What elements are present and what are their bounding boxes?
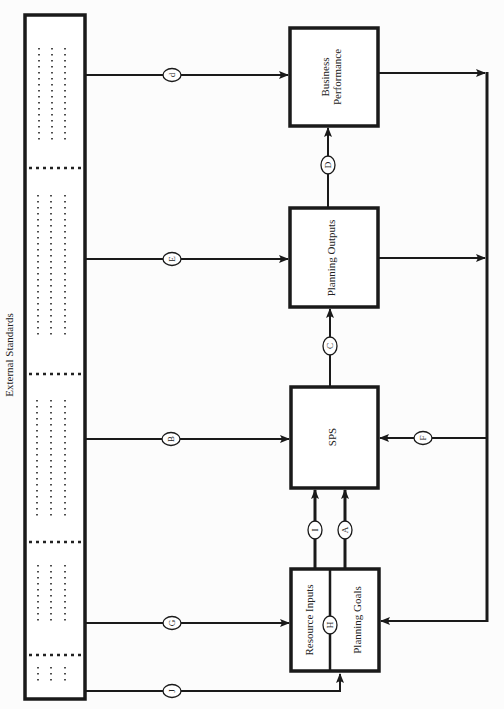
- business-performance-label-1: Business: [319, 57, 331, 96]
- planning-goals-label: Planning Goals: [351, 586, 363, 654]
- connector-G: G: [163, 617, 181, 630]
- sps-label: SPS: [326, 428, 338, 446]
- connector-H: H: [323, 616, 337, 634]
- connector-d: d: [163, 69, 181, 82]
- external-standards-box: [25, 15, 85, 699]
- edge-J: [86, 674, 340, 691]
- svg-text:B: B: [166, 436, 176, 442]
- svg-text:F: F: [418, 435, 428, 440]
- planning-outputs-label: Planning Outputs: [325, 220, 337, 297]
- connector-A: A: [338, 521, 352, 539]
- connector-D: D: [321, 156, 335, 174]
- svg-text:G: G: [167, 619, 177, 626]
- svg-text:H: H: [325, 621, 335, 628]
- planning-outputs-node: Planning Outputs: [290, 208, 378, 307]
- business-performance-node: Business Performance: [290, 28, 378, 126]
- connector-I: I: [308, 521, 322, 539]
- business-performance-label-2: Performance: [331, 49, 343, 105]
- connector-B: B: [162, 433, 180, 446]
- svg-text:D: D: [323, 161, 333, 168]
- svg-text:d: d: [167, 72, 177, 77]
- svg-text:A: A: [340, 526, 350, 533]
- connector-C: C: [323, 337, 337, 355]
- connector-E: E: [163, 253, 181, 266]
- connector-F: F: [414, 432, 432, 445]
- sps-node: SPS: [291, 387, 378, 488]
- resource-inputs-label: Resource Inputs: [303, 584, 315, 655]
- external-standards-label: External Standards: [3, 313, 15, 396]
- svg-text:J: J: [167, 689, 177, 693]
- diagram-canvas: External Standards Business Performance …: [0, 0, 504, 709]
- svg-text:E: E: [167, 256, 177, 262]
- svg-text:C: C: [325, 343, 335, 349]
- connector-J: J: [163, 685, 181, 698]
- svg-text:I: I: [310, 529, 320, 532]
- feedback-loop: [379, 72, 487, 622]
